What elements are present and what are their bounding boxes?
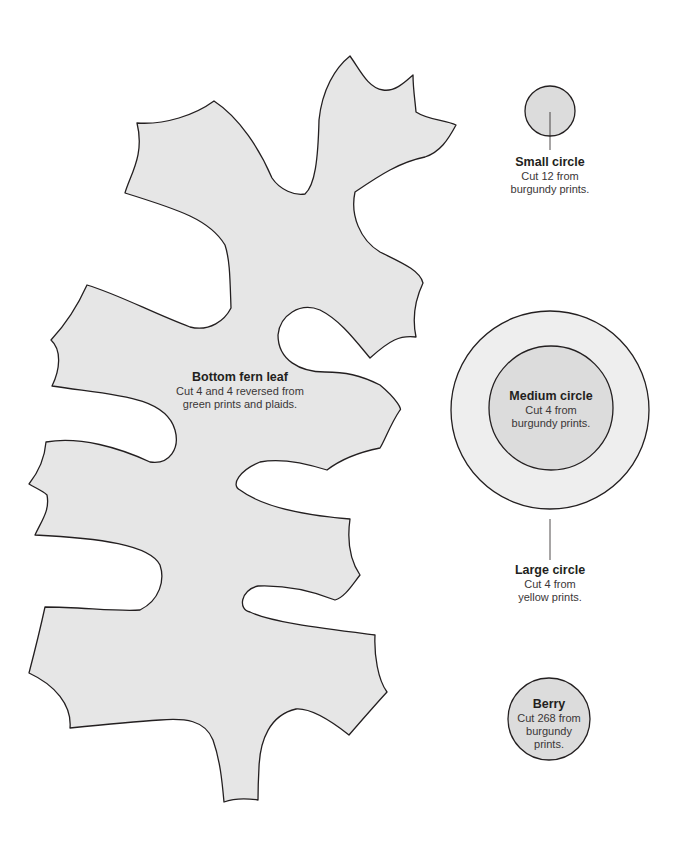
medium-circle-title: Medium circle xyxy=(491,389,611,404)
berry-label: Berry Cut 268 from burgundy prints. xyxy=(499,697,599,752)
large-circle-label: Large circle Cut 4 from yellow prints. xyxy=(490,563,610,604)
small-circle-label: Small circle Cut 12 from burgundy prints… xyxy=(490,155,610,196)
small-circle-instruction-1: Cut 12 from xyxy=(490,170,610,183)
large-circle-instruction-1: Cut 4 from xyxy=(490,578,610,591)
fern-leaf-instruction-1: Cut 4 and 4 reversed from xyxy=(140,385,340,398)
medium-circle-instruction-1: Cut 4 from xyxy=(491,404,611,417)
large-circle-instruction-2: yellow prints. xyxy=(490,591,610,604)
berry-instruction-2: burgundy xyxy=(499,725,599,738)
berry-instruction-1: Cut 268 from xyxy=(499,712,599,725)
fern-leaf-title: Bottom fern leaf xyxy=(140,370,340,385)
small-circle-instruction-2: burgundy prints. xyxy=(490,183,610,196)
fern-leaf-instruction-2: green prints and plaids. xyxy=(140,398,340,411)
fern-leaf-shape xyxy=(29,56,456,802)
berry-instruction-3: prints. xyxy=(499,738,599,751)
large-circle-title: Large circle xyxy=(490,563,610,578)
fern-leaf-label: Bottom fern leaf Cut 4 and 4 reversed fr… xyxy=(140,370,340,411)
small-circle-title: Small circle xyxy=(490,155,610,170)
medium-circle-instruction-2: burgundy prints. xyxy=(491,417,611,430)
medium-circle-label: Medium circle Cut 4 from burgundy prints… xyxy=(491,389,611,430)
berry-title: Berry xyxy=(499,697,599,712)
